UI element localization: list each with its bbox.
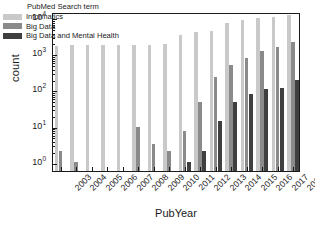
x-axis-label: PubYear	[52, 207, 300, 219]
x-tick-mark	[123, 167, 124, 171]
bar-group	[163, 12, 175, 171]
y-minor-tick-mark	[53, 133, 55, 134]
x-tick-mark	[107, 167, 108, 171]
y-tick-label: 103	[20, 49, 46, 58]
y-minor-tick-mark	[53, 57, 55, 58]
bar	[101, 45, 105, 171]
bar-group	[272, 12, 284, 171]
x-tick-mark	[293, 167, 294, 171]
y-minor-tick-mark	[53, 66, 55, 67]
bar	[218, 121, 222, 171]
bar	[233, 102, 237, 171]
y-minor-tick-mark	[53, 131, 55, 132]
bar-group	[287, 12, 299, 171]
legend-swatch-icon	[3, 14, 22, 20]
y-minor-tick-mark	[53, 74, 55, 75]
bar	[70, 45, 74, 171]
x-tick-mark	[200, 167, 201, 171]
legend-item: Big Data and Mental Health	[3, 31, 119, 40]
bar-group	[210, 12, 222, 171]
bar	[280, 88, 284, 171]
x-tick-mark	[278, 167, 279, 171]
y-tick-label: 101	[20, 122, 46, 131]
legend-title: PubMed Search term	[27, 2, 119, 11]
y-minor-tick-mark	[53, 102, 55, 103]
legend-label: Big Data	[26, 22, 55, 31]
y-minor-tick-mark	[53, 138, 55, 139]
bar	[264, 89, 268, 171]
bar-group	[132, 12, 144, 171]
x-axis-tick-labels: 2003200420052006200720082009201020112012…	[52, 172, 300, 206]
bar-group	[241, 12, 253, 171]
y-minor-tick-mark	[53, 117, 55, 118]
legend: PubMed Search term InformaticsBig DataBi…	[3, 2, 119, 41]
x-tick-mark	[185, 167, 186, 171]
legend-swatch-icon	[3, 33, 22, 39]
bar-group	[179, 12, 191, 171]
y-minor-tick-mark	[53, 146, 55, 147]
y-minor-tick-mark	[53, 110, 55, 111]
y-minor-tick-mark	[53, 70, 55, 71]
y-minor-tick-mark	[53, 63, 55, 64]
x-tick-mark	[216, 167, 217, 171]
y-minor-tick-mark	[53, 106, 55, 107]
legend-label: Big Data and Mental Health	[26, 31, 119, 40]
legend-entries: InformaticsBig DataBig Data and Mental H…	[3, 12, 119, 40]
x-tick-mark	[138, 167, 139, 171]
y-minor-tick-mark	[53, 142, 55, 143]
bar	[187, 162, 191, 171]
y-minor-tick-mark	[53, 95, 55, 96]
x-tick-mark	[247, 167, 248, 171]
y-tick-label: 102	[20, 85, 46, 94]
y-minor-tick-mark	[53, 136, 55, 137]
bar-group	[256, 12, 268, 171]
y-minor-tick-mark	[53, 61, 55, 62]
bar	[295, 80, 299, 171]
y-minor-tick-mark	[53, 44, 55, 45]
y-minor-tick-mark	[53, 129, 55, 130]
bar	[202, 151, 206, 171]
x-tick-mark	[169, 167, 170, 171]
x-tick-mark	[231, 167, 232, 171]
y-minor-tick-mark	[53, 97, 55, 98]
legend-item: Big Data	[3, 22, 119, 31]
y-minor-tick-mark	[53, 93, 55, 94]
bar	[117, 45, 121, 171]
x-tick-mark	[154, 167, 155, 171]
legend-item: Informatics	[3, 12, 119, 21]
legend-label: Informatics	[26, 12, 63, 21]
y-tick-mark	[53, 164, 57, 165]
y-minor-tick-mark	[53, 59, 55, 60]
bar-group	[225, 12, 237, 171]
legend-swatch-icon	[3, 23, 22, 29]
bar	[249, 94, 253, 171]
figure-chart: count 100101102103104 PubMed Search term…	[0, 0, 315, 229]
x-tick-mark	[262, 167, 263, 171]
y-tick-label: 100	[20, 158, 46, 167]
x-tick-mark	[76, 167, 77, 171]
x-tick-mark	[92, 167, 93, 171]
bar-group	[148, 12, 160, 171]
y-minor-tick-mark	[53, 99, 55, 100]
bar	[136, 127, 140, 171]
bar	[86, 45, 90, 171]
y-minor-tick-mark	[53, 153, 55, 154]
x-tick-mark	[61, 167, 62, 171]
y-minor-tick-mark	[53, 81, 55, 82]
bar-group	[194, 12, 206, 171]
